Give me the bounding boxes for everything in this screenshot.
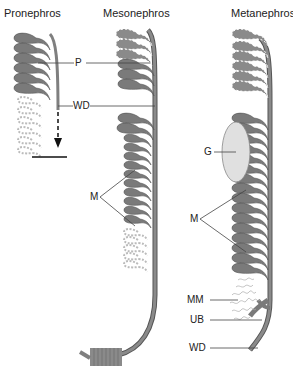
label-m-metanephros: M — [190, 214, 198, 224]
label-wd-bottom: WD — [189, 343, 206, 353]
title-pronephros: Pronephros — [4, 7, 61, 19]
label-ub: UB — [190, 315, 204, 325]
leader-lines — [38, 63, 262, 348]
title-metanephros: Metanephros — [231, 7, 293, 19]
label-p: P — [75, 58, 82, 68]
label-wd-top: WD — [73, 101, 90, 111]
pronephros-structure — [14, 33, 67, 158]
label-m-mesonephros: M — [90, 192, 98, 202]
diagram-canvas — [0, 0, 293, 375]
kidney-development-diagram: Pronephros Mesonephros Metanephros — [0, 0, 293, 375]
title-mesonephros: Mesonephros — [103, 7, 170, 19]
metanephros-structure — [222, 29, 270, 350]
label-mm: MM — [187, 295, 204, 305]
label-g: G — [204, 147, 212, 157]
